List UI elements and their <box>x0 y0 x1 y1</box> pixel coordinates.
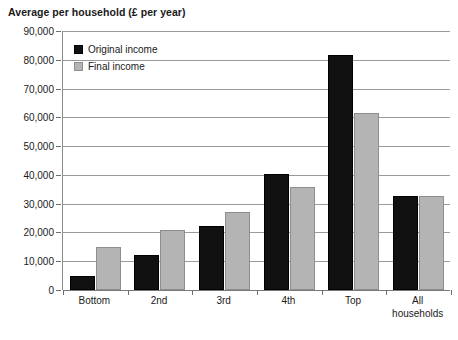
bar <box>70 276 95 290</box>
y-axis-tick <box>56 89 61 90</box>
x-axis-category-label: 4th <box>256 295 321 308</box>
x-axis-category-label: 2nd <box>127 295 192 308</box>
bar-chart: Average per household (£ per year) 90,00… <box>0 0 458 340</box>
bar <box>96 247 121 290</box>
bar <box>393 196 418 290</box>
bar-group <box>322 31 387 290</box>
bar-group <box>257 31 322 290</box>
y-axis-tick-marks <box>0 31 62 290</box>
y-axis-tick <box>56 204 61 205</box>
x-axis-labels: Bottom2nd3rd4thTopAllhouseholds <box>62 295 450 337</box>
y-axis-tick <box>56 232 61 233</box>
bar <box>328 55 353 290</box>
bar <box>354 113 379 290</box>
bar <box>199 226 224 290</box>
legend-item-final-income: Final income <box>74 58 204 75</box>
y-axis-tick <box>56 261 61 262</box>
bar <box>264 174 289 290</box>
x-axis-category-label: 3rd <box>191 295 256 308</box>
bar <box>290 187 315 290</box>
chart-legend: Original income Final income <box>74 41 204 75</box>
y-axis-tick <box>56 117 61 118</box>
legend-swatch-final-income <box>74 62 83 71</box>
y-axis-tick <box>56 31 61 32</box>
chart-title: Average per household (£ per year) <box>8 6 186 18</box>
y-axis-tick <box>56 175 61 176</box>
x-axis-category-label: Bottom <box>62 295 127 308</box>
legend-label-final-income: Final income <box>88 61 145 72</box>
bar <box>419 196 444 290</box>
x-axis-tick <box>451 290 452 295</box>
legend-swatch-original-income <box>74 45 83 54</box>
x-axis-category-label: Allhouseholds <box>385 295 450 320</box>
y-axis-tick <box>56 290 61 291</box>
bar <box>160 230 185 290</box>
bar <box>134 255 159 290</box>
bar-group <box>386 31 451 290</box>
y-axis-tick <box>56 60 61 61</box>
x-axis-category-label: Top <box>321 295 386 308</box>
y-axis-tick <box>56 146 61 147</box>
legend-label-original-income: Original income <box>88 44 157 55</box>
legend-item-original-income: Original income <box>74 41 204 58</box>
bar <box>225 212 250 290</box>
